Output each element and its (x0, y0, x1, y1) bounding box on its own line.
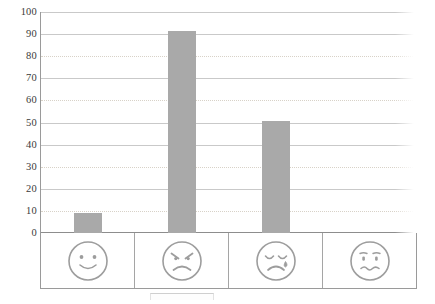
y-tick-label: 100 (3, 7, 37, 18)
bar-angry[interactable] (168, 31, 196, 233)
category-cell-worried[interactable] (323, 233, 416, 288)
category-cell-sad[interactable] (229, 233, 323, 288)
happy-face-icon (66, 239, 110, 283)
sad-crying-face-icon (254, 239, 298, 283)
y-tick-label: 10 (3, 206, 37, 217)
y-tick-label: 30 (3, 161, 37, 172)
category-cell-angry[interactable] (135, 233, 229, 288)
angry-face-icon (160, 239, 204, 283)
plot-area (40, 12, 417, 233)
y-axis: 100 90 80 70 60 50 40 30 20 10 0 (0, 0, 37, 304)
bar-chart: 100 90 80 70 60 50 40 30 20 10 0 (0, 0, 435, 304)
bar-happy[interactable] (74, 213, 102, 233)
bar-cell-happy (41, 12, 135, 233)
category-cell-happy[interactable] (41, 233, 135, 288)
y-tick-label: 20 (3, 184, 37, 195)
y-tick-label: 60 (3, 95, 37, 106)
y-tick-label: 70 (3, 73, 37, 84)
legend-stub (150, 293, 214, 300)
y-tick-label: 80 (3, 51, 37, 62)
category-axis (40, 233, 417, 289)
y-tick-label: 50 (3, 117, 37, 128)
y-tick-label: 40 (3, 139, 37, 150)
bar-cell-worried (323, 12, 417, 233)
bar-series (41, 12, 417, 233)
bar-cell-sad (229, 12, 323, 233)
bar-sad[interactable] (262, 121, 290, 233)
worried-face-icon (348, 239, 392, 283)
y-tick-label: 90 (3, 29, 37, 40)
bar-cell-angry (135, 12, 229, 233)
y-tick-label: 0 (3, 228, 37, 239)
